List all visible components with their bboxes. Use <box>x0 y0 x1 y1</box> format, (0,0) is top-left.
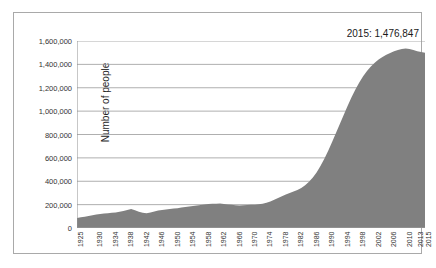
x-axis-tick-label: 1970 <box>251 231 258 247</box>
x-axis-tick-label: 2002 <box>375 231 382 247</box>
area-series-path <box>77 49 425 228</box>
y-axis-tick-label: 800,000 <box>45 130 72 139</box>
x-axis-tick-label: 2015 <box>425 231 432 247</box>
y-axis-tick-label: 1,400,000 <box>39 60 72 69</box>
area-series-svg <box>77 41 425 228</box>
x-axis-tick-label: 1986 <box>313 231 320 247</box>
x-axis-tick-label: 1998 <box>359 231 366 247</box>
y-axis-tick-label: 1,000,000 <box>39 107 72 116</box>
y-axis-tick-label: 600,000 <box>45 153 72 162</box>
x-axis-tick-label: 1974 <box>266 231 273 247</box>
y-axis-tick-label: 0 <box>68 224 72 233</box>
plot-area: Number of people 1,600,0001,400,0001,200… <box>77 41 425 228</box>
x-axis-tick-label: 2006 <box>390 231 397 247</box>
final-value-annotation: 2015: 1,476,847 <box>254 28 419 39</box>
chart-frame: 2015: 1,476,847 Number of people 1,600,0… <box>13 12 422 254</box>
chart-figure: 2015: 1,476,847 Number of people 1,600,0… <box>0 0 436 268</box>
x-axis-tick-label: 1954 <box>189 231 196 247</box>
x-axis-tick-label: 1938 <box>127 231 134 247</box>
y-axis-tick-label: 400,000 <box>45 177 72 186</box>
x-axis-tick-label: 1958 <box>205 231 212 247</box>
y-axis-tick-label: 1,200,000 <box>39 83 72 92</box>
x-axis-tick-label: 1942 <box>143 231 150 247</box>
x-axis-tick-label: 2013 <box>417 231 424 247</box>
x-axis-tick-label: 1925 <box>77 231 84 247</box>
y-axis-tick-label: 1,600,000 <box>39 37 72 46</box>
x-axis-tick-label: 1962 <box>220 231 227 247</box>
x-axis-tick-label: 1990 <box>328 231 335 247</box>
x-axis-tick-label: 1934 <box>112 231 119 247</box>
y-axis-tick-label: 200,000 <box>45 200 72 209</box>
x-axis-tick-label: 2010 <box>406 231 413 247</box>
x-axis-tick-label: 1930 <box>96 231 103 247</box>
x-axis-tick-label: 1978 <box>282 231 289 247</box>
x-axis-tick-label: 1966 <box>236 231 243 247</box>
x-axis-tick-label: 1950 <box>174 231 181 247</box>
x-axis-tick-label: 1994 <box>344 231 351 247</box>
x-axis-tick-label: 1946 <box>158 231 165 247</box>
x-axis-tick-label: 1982 <box>297 231 304 247</box>
